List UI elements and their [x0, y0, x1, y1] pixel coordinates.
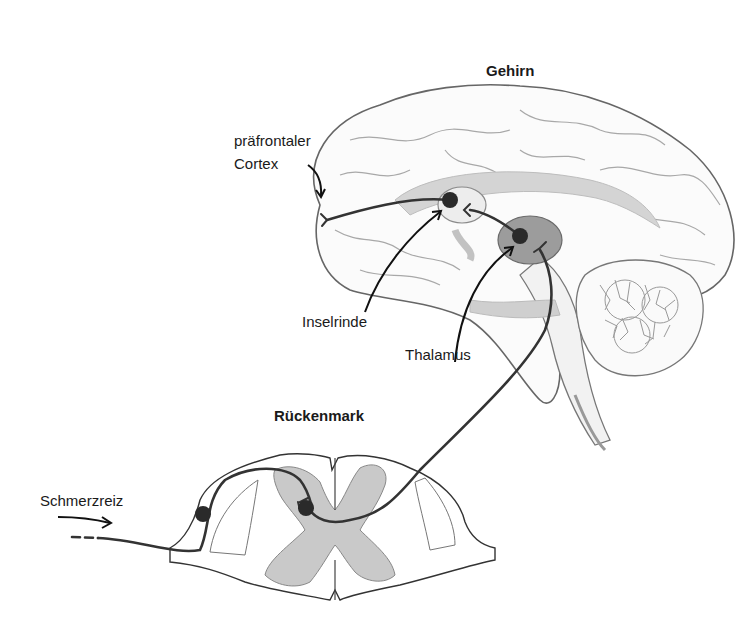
- label-insula: Inselrinde: [302, 313, 367, 331]
- neuron-body-dorsal-root-ganglion: [195, 506, 211, 522]
- neuron-body-thalamus: [512, 228, 528, 244]
- thalamus-region: [498, 216, 562, 264]
- spinal-cord-cross-section: [170, 454, 495, 600]
- pain-pathway-diagram: [0, 0, 754, 619]
- label-spinal-cord: Rückenmark: [274, 407, 364, 425]
- neuron-body-spinal-cord: [298, 500, 314, 516]
- incoming-nerve-dashed: [72, 537, 98, 538]
- cerebellum: [576, 260, 703, 376]
- brain-illustration: [314, 85, 734, 450]
- label-stimulus: Schmerzreiz: [40, 492, 123, 510]
- label-thalamus: Thalamus: [405, 346, 471, 364]
- neuron-body-insula: [442, 192, 458, 208]
- label-prefrontal-line2: Cortex: [234, 155, 278, 173]
- label-brain: Gehirn: [486, 62, 534, 80]
- label-prefrontal-line1: präfrontaler: [234, 132, 311, 150]
